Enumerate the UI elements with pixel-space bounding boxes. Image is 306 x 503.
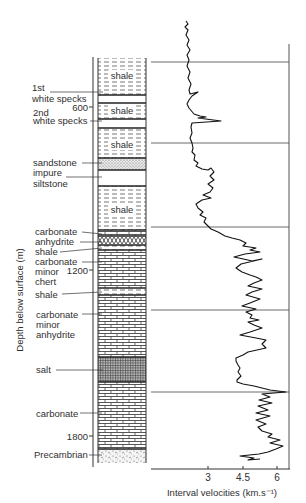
lithology-column: shale shale shale shale (98, 58, 146, 463)
depth-tick-600: 600 (72, 102, 88, 113)
svg-text:anhydrite: anhydrite (36, 329, 75, 340)
svg-text:Precambrian: Precambrian (34, 449, 88, 460)
y-axis-label: Depth below surface (m) (14, 248, 25, 351)
svg-text:carbonate: carbonate (36, 408, 78, 419)
depth-tick-1800: 1800 (67, 431, 88, 442)
column-label-shale-4: shale (111, 204, 134, 215)
svg-text:chert: chert (35, 276, 56, 287)
lithology-labels: 1st white specks 600 2nd white specks sa… (31, 82, 103, 460)
svg-text:1st: 1st (32, 82, 45, 93)
column-label-shale-1: shale (111, 70, 134, 81)
column-label-shale-3: shale (111, 139, 134, 150)
svg-text:salt: salt (36, 364, 51, 375)
depth-tick-1200: 1200 (67, 265, 88, 276)
seismic-velocity-log-figure: Depth below surface (m) (0, 0, 306, 503)
x-tick-3: 3 (205, 472, 211, 483)
svg-text:siltstone: siltstone (33, 178, 68, 189)
column-label-shale-2: shale (111, 105, 134, 116)
svg-text:shale: shale (35, 289, 58, 300)
velocity-log-panel: 3 4.5 6 Interval velocities (km.s⁻¹) (151, 21, 290, 498)
svg-text:white specks: white specks (32, 115, 88, 126)
x-axis-label: Interval velocities (km.s⁻¹) (167, 487, 277, 498)
x-tick-4-5: 4.5 (236, 472, 250, 483)
x-tick-6: 6 (274, 472, 280, 483)
svg-text:impure: impure (33, 167, 62, 178)
velocity-trace (185, 21, 286, 460)
